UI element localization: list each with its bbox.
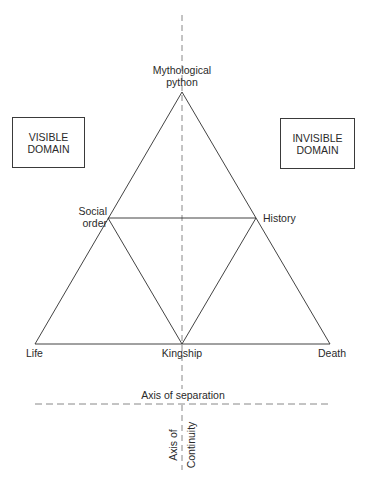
axis-of-continuity-label-part2: Continuity	[185, 417, 197, 473]
node-label-kingship: Kingship	[152, 347, 212, 359]
node-label-life: Life	[26, 347, 43, 359]
invisible-domain-box: INVISIBLE DOMAIN	[280, 118, 355, 169]
visible-domain-box: VISIBLE DOMAIN	[12, 117, 85, 168]
node-label-death: Death	[318, 347, 346, 359]
node-label-social-order: Social order	[73, 205, 107, 229]
node-label-mythological-python: Mythological python	[142, 64, 222, 88]
edge-socialorder-kingship	[108, 218, 182, 344]
edge-history-kingship	[182, 218, 256, 344]
cut-off-caption	[22, 476, 322, 481]
axis-of-separation-label: Axis of separation	[122, 389, 244, 401]
axis-of-continuity-label-part1: Axis of	[167, 420, 179, 470]
node-label-history: History	[263, 212, 296, 224]
